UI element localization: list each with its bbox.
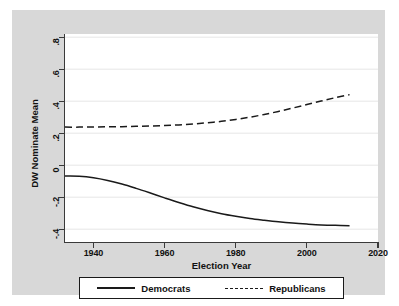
legend-label: Democrats — [141, 283, 190, 294]
y-axis-title: DW Nominate Mean — [29, 84, 40, 204]
chart-legend: DemocratsRepublicans — [79, 277, 344, 299]
x-tick-label: 2000 — [297, 248, 317, 258]
x-tick-label: 1960 — [155, 248, 175, 258]
legend-label: Republicans — [269, 283, 326, 294]
plot-svg — [65, 34, 378, 242]
x-tick-label: 1980 — [226, 248, 246, 258]
y-axis-line — [64, 34, 65, 243]
series-line-republicans — [65, 95, 350, 127]
plot-area — [65, 34, 378, 242]
y-tick-label: -.4 — [51, 229, 61, 239]
legend-entry-democrats[interactable]: Democrats — [97, 283, 190, 294]
gridlines — [65, 37, 378, 229]
x-tick-label: 1940 — [84, 248, 104, 258]
chart-figure: .8.6.4.20-.2-.4 19401960198020002020 DW … — [0, 0, 399, 306]
y-tick-label: 0 — [51, 168, 61, 173]
graph-region: .8.6.4.20-.2-.4 19401960198020002020 DW … — [12, 10, 385, 295]
legend-entry-republicans[interactable]: Republicans — [225, 283, 326, 294]
x-tick-label: 2020 — [368, 248, 388, 258]
y-tick-label: .2 — [51, 135, 61, 142]
y-tick-label: -.2 — [51, 197, 61, 207]
legend-key-dashed-icon — [225, 288, 263, 289]
y-tick-mark — [59, 165, 64, 166]
x-axis-title: Election Year — [65, 260, 378, 271]
series-line-democrats — [65, 176, 350, 226]
y-tick-label: .8 — [51, 39, 61, 46]
x-axis-line — [64, 242, 379, 243]
series-paths — [65, 95, 350, 226]
legend-key-solid-icon — [97, 287, 135, 289]
y-tick-label: .4 — [51, 103, 61, 110]
y-tick-label: .6 — [51, 71, 61, 78]
